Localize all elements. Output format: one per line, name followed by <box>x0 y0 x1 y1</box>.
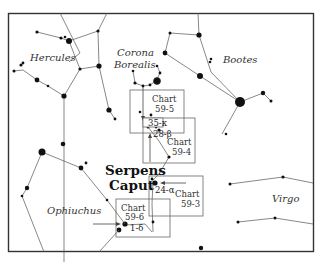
label-serpens: Serpens <box>105 162 166 178</box>
chart-59-6-number: 59-6 <box>125 212 144 222</box>
bootes-figure <box>163 13 273 135</box>
label-hercules: Hercules <box>29 52 76 63</box>
star-label-28-beta: 28-β <box>153 129 172 139</box>
hercules-figure <box>14 13 115 262</box>
star-label-24-alpha: 24-α <box>155 185 175 195</box>
chart-59-4-number: 59-4 <box>172 147 191 157</box>
label-corona: Corona <box>117 47 154 58</box>
chart-59-3-number: 59-3 <box>181 199 200 209</box>
star-label-1-delta: 1-δ <box>130 223 143 233</box>
virgo-figure <box>229 175 314 224</box>
label-caput: Caput <box>109 177 155 193</box>
chart-59-5-number: 59-5 <box>155 104 174 114</box>
label-virgo: Virgo <box>272 193 299 204</box>
chart-59-5-title: Chart <box>152 94 177 104</box>
label-ophiuchus: Ophiuchus <box>47 205 101 216</box>
label-borealis: Borealis <box>113 59 156 70</box>
star-label-35-kappa: 35-κ <box>148 118 168 128</box>
chart-59-3-title: Chart <box>175 189 200 199</box>
label-bootes: Bootes <box>222 54 257 65</box>
star-chart: Hercules Corona Borealis Bootes Ophiuchu… <box>0 0 320 262</box>
